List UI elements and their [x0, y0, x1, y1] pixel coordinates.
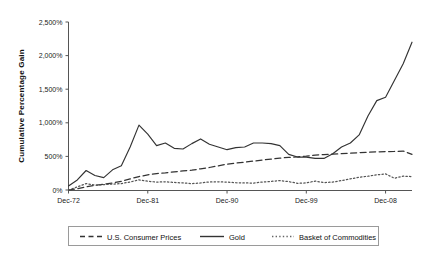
x-tick-label: Dec-72 [57, 197, 80, 204]
series-line-gold [69, 42, 413, 186]
y-tick-label: 500% [45, 153, 63, 160]
x-tick-label: Dec-81 [136, 197, 159, 204]
series-line-u-s-consumer-prices [69, 151, 413, 190]
legend-label-u-s-consumer-prices[interactable]: U.S. Consumer Prices [107, 233, 181, 242]
x-axis-ticks: Dec-72Dec-81Dec-90Dec-99Dec-08 [57, 190, 397, 204]
y-axis-title: Cumulative Percentage Gain [17, 49, 26, 163]
x-tick-label: Dec-90 [216, 197, 239, 204]
legend: U.S. Consumer PricesGoldBasket of Commod… [80, 233, 376, 242]
legend-label-gold[interactable]: Gold [229, 233, 245, 242]
x-tick-label: Dec-99 [295, 197, 318, 204]
y-tick-label: 1,500% [39, 86, 63, 93]
y-tick-label: 2,000% [39, 52, 63, 59]
chart-container: Cumulative Percentage Gain 0%500%1,000%1… [0, 0, 422, 262]
x-tick-label: Dec-08 [374, 197, 397, 204]
cumulative-percentage-gain-line-chart: Cumulative Percentage Gain 0%500%1,000%1… [0, 0, 422, 262]
legend-label-basket-of-commodities[interactable]: Basket of Commodities [299, 233, 376, 242]
chart-series-group [69, 42, 413, 190]
y-axis-ticks: 0%500%1,000%1,500%2,000%2,500% [39, 19, 69, 194]
y-tick-label: 0% [52, 187, 62, 194]
y-tick-label: 1,000% [39, 119, 63, 126]
y-tick-label: 2,500% [39, 19, 63, 26]
